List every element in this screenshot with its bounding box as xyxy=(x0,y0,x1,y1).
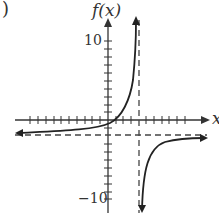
x-axis-arrow-icon xyxy=(201,116,210,124)
y-axis-arrow-icon xyxy=(104,18,112,27)
left-branch-arrow-icon xyxy=(15,129,23,137)
right-branch xyxy=(142,138,204,210)
left-branch xyxy=(20,22,136,133)
plot xyxy=(0,0,219,213)
